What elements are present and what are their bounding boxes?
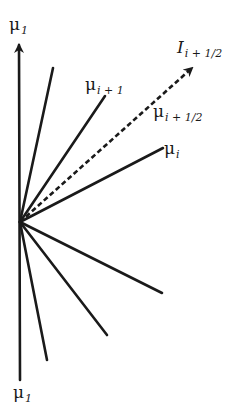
- axis-top-label: μ1: [9, 16, 28, 33]
- upper-ray-2: [20, 148, 163, 222]
- ray-diagram: [0, 0, 241, 417]
- mu-i-plus-half-label: μi + 1/2: [153, 103, 203, 120]
- mu-i-plus-1-label: μi + 1: [85, 76, 124, 93]
- lower-ray-0: [20, 222, 162, 293]
- lower-ray-1: [20, 222, 107, 335]
- vertical-axis-arrow: [19, 45, 20, 380]
- mu-i-label: μi: [164, 140, 180, 157]
- axis-bottom-label: μ1: [13, 384, 32, 401]
- dashed-arrow-label: Ii + 1/2: [177, 39, 222, 56]
- lower-ray-2: [20, 222, 47, 360]
